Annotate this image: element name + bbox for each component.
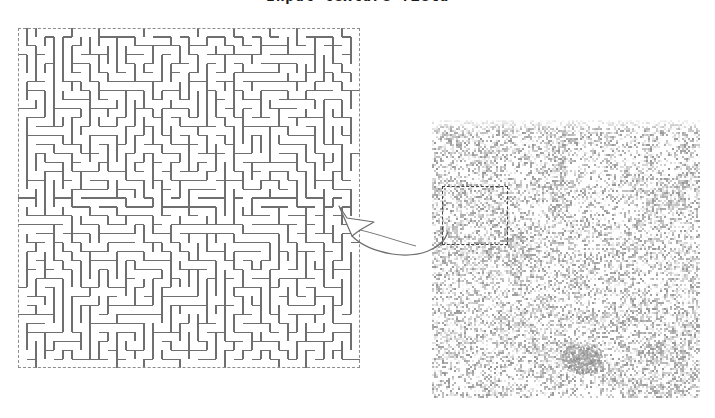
figure-root: Input texture field (0, 0, 715, 418)
arrow-inner-edge (360, 230, 416, 246)
page-title: Input texture field (0, 0, 715, 5)
texture-panel (432, 120, 700, 398)
maze-panel (18, 28, 360, 368)
figure-title-container: Input texture field (0, 0, 715, 5)
noise-texture-canvas (432, 120, 700, 398)
crop-region-box[interactable] (442, 186, 508, 245)
maze-border (18, 28, 360, 368)
